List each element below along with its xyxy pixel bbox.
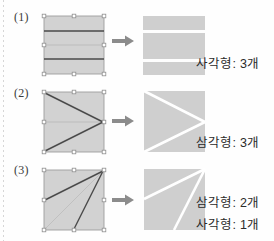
source-figure-3	[40, 165, 108, 235]
source-figure-1	[40, 12, 108, 78]
square-with-fan-cuts	[40, 165, 108, 235]
right-arrow-icon	[111, 193, 135, 207]
row-number-label: (1)	[14, 10, 29, 25]
triangle-count-label: 삼각형: 2개	[196, 192, 259, 211]
transform-arrow-1	[111, 34, 135, 48]
source-figure-2	[40, 88, 108, 156]
right-arrow-icon	[111, 34, 135, 48]
row-number-label: (2)	[14, 86, 29, 101]
right-arrow-icon	[111, 114, 135, 128]
worksheet-row-1: (1)	[0, 6, 274, 81]
square-with-horizontal-cuts	[40, 12, 108, 78]
row-number-label: (3)	[14, 163, 29, 178]
worksheet-page: (1)	[0, 0, 274, 241]
square-with-chevron-cuts	[40, 88, 108, 156]
rectangle-count-label: 사각형: 1개	[196, 214, 259, 233]
triangle-count-label: 삼각형: 3개	[196, 132, 259, 151]
transform-arrow-2	[111, 114, 135, 128]
worksheet-row-2: (2)	[0, 82, 274, 158]
worksheet-row-3: (3)	[0, 159, 274, 239]
result-piece-rectangle-1	[143, 16, 205, 30]
transform-arrow-3	[111, 193, 135, 207]
rectangle-count-label: 사각형: 3개	[196, 53, 259, 72]
